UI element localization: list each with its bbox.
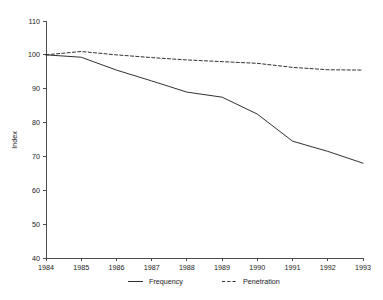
x-tick-label: 1990 [249,263,265,272]
chart-axes [46,21,363,258]
legend-label-penetration: Penetration [243,277,280,286]
line-chart: 405060708090100110 198419851986198719881… [0,0,383,300]
y-tick-label: 90 [32,84,40,93]
y-tick-label: 60 [32,186,40,195]
x-tick-label: 1985 [73,263,89,272]
y-tick-label: 110 [29,17,40,26]
x-tick-label: 1992 [320,263,336,272]
y-tick-label: 70 [32,152,40,161]
y-axis-title: Index [10,131,19,149]
x-tick-label: 1986 [108,263,124,272]
x-tick-label: 1993 [355,263,371,272]
x-tick-label: 1989 [214,263,230,272]
series-line-penetration [46,51,363,70]
series-line-frequency [46,55,363,163]
y-tick-label: 50 [32,220,40,229]
y-axis-ticks: 405060708090100110 [28,17,46,263]
chart-container: 405060708090100110 198419851986198719881… [0,0,383,300]
legend-label-frequency: Frequency [149,277,183,286]
x-tick-label: 1988 [179,263,195,272]
x-tick-label: 1991 [285,263,301,272]
y-tick-label: 40 [32,254,40,263]
x-tick-label: 1984 [38,263,54,272]
chart-legend: FrequencyPenetration [128,277,280,286]
x-tick-label: 1987 [144,263,160,272]
y-tick-label: 100 [28,50,40,59]
y-tick-label: 80 [32,118,40,127]
chart-series-group [46,51,363,163]
x-axis-ticks: 1984198519861987198819891990199119921993 [38,258,371,272]
